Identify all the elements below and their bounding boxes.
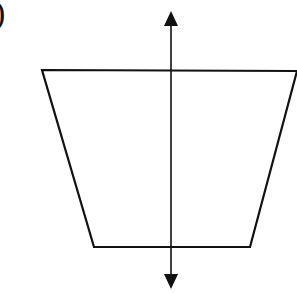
arrow-down-icon <box>164 274 178 289</box>
arrow-up-icon <box>164 11 178 26</box>
trapezoid-shape <box>42 70 297 247</box>
diagram-canvas <box>0 0 297 293</box>
